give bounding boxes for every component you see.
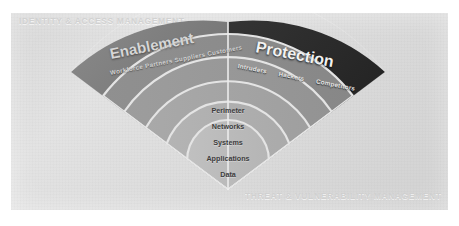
fan-diagram <box>0 0 459 226</box>
slide-canvas: IDENTITY & ACCESS MANAGEMENT THREAT & VU… <box>0 0 459 226</box>
